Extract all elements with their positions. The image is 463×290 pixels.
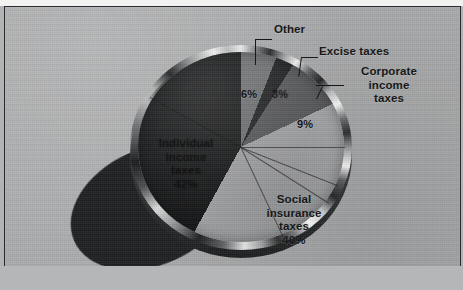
leader-line-other-horizontal xyxy=(255,39,272,40)
slice-value-corporate: 9% xyxy=(297,118,313,132)
slice-label-social-insurance: Social insurance taxes 40% xyxy=(257,193,331,247)
slice-divider-other-start xyxy=(241,147,345,148)
leader-line-corporate-horizontal xyxy=(316,85,344,86)
slice-value-excise: 3% xyxy=(272,88,288,102)
pie-chart-figure: Other Excise taxes Corporate income taxe… xyxy=(4,6,461,267)
scan-bottom-margin xyxy=(0,266,463,290)
slice-value-other: 6% xyxy=(241,88,257,102)
callout-label-corporate: Corporate income taxes xyxy=(346,65,432,106)
leader-line-excise-horizontal xyxy=(301,57,318,58)
callout-label-excise: Excise taxes xyxy=(319,45,389,59)
slice-label-individual-income: Individual income taxes 42% xyxy=(157,137,215,191)
screenshot-canvas: Other Excise taxes Corporate income taxe… xyxy=(0,0,463,290)
leader-line-other-vertical xyxy=(255,39,256,65)
callout-label-other: Other xyxy=(274,23,305,37)
pie-stage xyxy=(5,7,460,266)
